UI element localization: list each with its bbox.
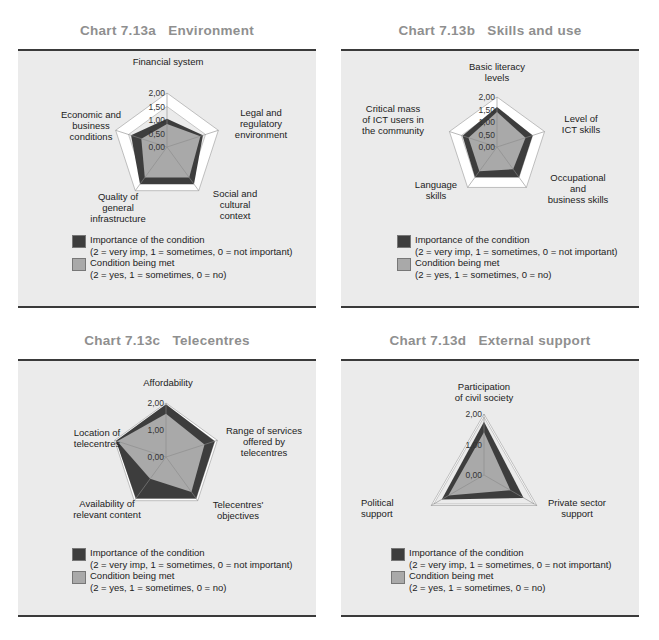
importance-swatch: [397, 235, 411, 248]
svg-text:0,50: 0,50: [478, 130, 495, 140]
axis-label: Location of telecentres: [62, 427, 132, 449]
chart-7-13c: Chart 7.13c Telecentres 2,001,000,00 Aff…: [18, 318, 316, 628]
met-swatch: [391, 571, 405, 584]
legend-label: Condition being met: [415, 257, 500, 268]
svg-text:0,00: 0,00: [478, 142, 495, 152]
chart-7-13a: Chart 7.13a Environment 2,001,501,000,50…: [18, 0, 316, 310]
chart-panel: 2,001,000,00 Affordability Range of serv…: [18, 359, 316, 617]
svg-text:1,00: 1,00: [478, 117, 495, 127]
legend-label: Importance of the condition: [90, 234, 205, 245]
legend-item-met: Condition being met (2 = yes, 1 = someti…: [72, 570, 292, 593]
axis-label: Social and cultural context: [195, 188, 275, 221]
axis-label: Critical mass of ICT users in the commun…: [343, 103, 443, 136]
axis-label: Economic and business conditions: [48, 109, 134, 142]
chart-7-13d: Chart 7.13d External support 2,001,000,0…: [341, 318, 639, 628]
chart-title: Chart 7.13b Skills and use: [341, 23, 639, 38]
chart-panel: 2,001,501,000,500,00 Financial system Le…: [18, 49, 316, 308]
legend-scale: (2 = yes, 1 = sometimes, 0 = no): [90, 269, 292, 281]
svg-text:1,00: 1,00: [147, 425, 164, 435]
legend-scale: (2 = very imp, 1 = sometimes, 0 = not im…: [90, 246, 292, 258]
chart-title: Chart 7.13c Telecentres: [18, 333, 316, 348]
axis-label: Quality of general infrastructure: [78, 191, 158, 224]
svg-text:1,50: 1,50: [478, 105, 495, 115]
svg-text:0,00: 0,00: [465, 470, 482, 480]
axis-label: Availability of relevant content: [62, 498, 152, 520]
svg-text:0,00: 0,00: [147, 452, 164, 462]
svg-text:2,00: 2,00: [148, 88, 165, 98]
axis-label: Basic literacy levels: [457, 61, 537, 83]
legend: Importance of the condition (2 = very im…: [391, 547, 611, 593]
legend-label: Condition being met: [90, 570, 175, 581]
axis-label: Language skills: [401, 179, 471, 201]
legend-scale: (2 = yes, 1 = sometimes, 0 = no): [90, 582, 292, 594]
legend-label: Condition being met: [90, 257, 175, 268]
legend-label: Condition being met: [409, 570, 494, 581]
axis-label: Telecentres' objectives: [198, 499, 278, 521]
legend: Importance of the condition (2 = very im…: [72, 547, 292, 593]
legend-item-met: Condition being met (2 = yes, 1 = someti…: [397, 257, 617, 280]
importance-swatch: [72, 235, 86, 248]
legend-item-importance: Importance of the condition (2 = very im…: [72, 234, 292, 257]
importance-swatch: [391, 548, 405, 561]
legend-item-met: Condition being met (2 = yes, 1 = someti…: [72, 257, 292, 280]
met-swatch: [397, 258, 411, 271]
svg-text:1,00: 1,00: [465, 440, 482, 450]
chart-panel: 2,001,000,00 Participation of civil soci…: [341, 359, 639, 617]
legend-label: Importance of the condition: [415, 234, 530, 245]
met-swatch: [72, 571, 86, 584]
importance-swatch: [72, 548, 86, 561]
legend-item-importance: Importance of the condition (2 = very im…: [391, 547, 611, 570]
legend-label: Importance of the condition: [409, 547, 524, 558]
axis-label: Affordability: [123, 377, 213, 388]
legend-item-importance: Importance of the condition (2 = very im…: [397, 234, 617, 257]
svg-text:2,00: 2,00: [465, 409, 482, 419]
legend-scale: (2 = yes, 1 = sometimes, 0 = no): [409, 582, 611, 594]
axis-label: Level of ICT skills: [541, 113, 621, 135]
legend-item-importance: Importance of the condition (2 = very im…: [72, 547, 292, 570]
axis-label: Financial system: [118, 56, 218, 67]
chart-title: Chart 7.13a Environment: [18, 23, 316, 38]
chart-7-13b: Chart 7.13b Skills and use 2,001,501,000…: [341, 0, 639, 310]
axis-label: Private sector support: [537, 497, 617, 519]
legend: Importance of the condition (2 = very im…: [72, 234, 292, 280]
svg-text:0,00: 0,00: [148, 142, 165, 152]
met-swatch: [72, 258, 86, 271]
legend-label: Importance of the condition: [90, 547, 205, 558]
svg-text:1,00: 1,00: [148, 115, 165, 125]
axis-label: Occupational and business skills: [533, 172, 623, 205]
svg-text:2,00: 2,00: [147, 398, 164, 408]
axis-label: Political support: [361, 497, 421, 519]
legend-scale: (2 = very imp, 1 = sometimes, 0 = not im…: [90, 559, 292, 571]
axis-label: Legal and regulatory environment: [216, 107, 306, 140]
svg-text:1,50: 1,50: [148, 102, 165, 112]
axis-label: Participation of civil society: [439, 381, 529, 403]
svg-text:0,50: 0,50: [148, 129, 165, 139]
legend-scale: (2 = yes, 1 = sometimes, 0 = no): [415, 269, 617, 281]
legend-scale: (2 = very imp, 1 = sometimes, 0 = not im…: [415, 246, 617, 258]
svg-text:2,00: 2,00: [478, 92, 495, 102]
legend-item-met: Condition being met (2 = yes, 1 = someti…: [391, 570, 611, 593]
legend-scale: (2 = very imp, 1 = sometimes, 0 = not im…: [409, 559, 611, 571]
chart-panel: 2,001,501,000,500,00 Basic literacy leve…: [341, 49, 639, 308]
axis-label: Range of services offered by telecentres: [214, 425, 314, 458]
chart-title: Chart 7.13d External support: [341, 333, 639, 348]
legend: Importance of the condition (2 = very im…: [397, 234, 617, 280]
